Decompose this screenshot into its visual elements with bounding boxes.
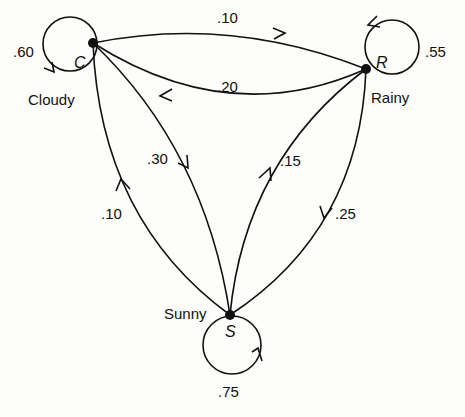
node-sunny-dot bbox=[225, 310, 235, 320]
prob-sunny-to-cloudy: .10 bbox=[101, 205, 122, 222]
edge-sunny-to-cloudy bbox=[93, 43, 230, 315]
node-name-sunny: Sunny bbox=[164, 305, 207, 322]
self-loop-rainy bbox=[365, 20, 419, 74]
edge-sunny-to-rainy bbox=[230, 69, 366, 315]
prob-sunny-to-rainy: .15 bbox=[280, 152, 301, 169]
edge-cloudy-to-rainy bbox=[93, 33, 366, 69]
node-name-rainy: Rainy bbox=[371, 89, 409, 106]
prob-rainy-self: .55 bbox=[425, 43, 446, 60]
edge-cloudy-to-sunny bbox=[93, 43, 230, 315]
edge-rainy-to-sunny bbox=[230, 69, 366, 315]
node-cloudy-dot bbox=[88, 38, 98, 48]
arrow-icon bbox=[44, 62, 54, 72]
prob-cloudy-to-sunny: .30 bbox=[147, 150, 168, 167]
state-diagram-canvas bbox=[0, 0, 465, 417]
arrow-icon bbox=[116, 179, 130, 191]
prob-cloudy-to-rainy: .10 bbox=[217, 9, 238, 26]
prob-rainy-to-sunny: .25 bbox=[335, 205, 356, 222]
prob-cloudy-self: .60 bbox=[13, 43, 34, 60]
node-letter-rainy: R bbox=[376, 54, 388, 72]
node-rainy-dot bbox=[361, 64, 371, 74]
prob-sunny-self: .75 bbox=[218, 383, 239, 400]
arrow-icon bbox=[160, 89, 172, 101]
node-letter-cloudy: C bbox=[74, 54, 86, 72]
node-letter-sunny: S bbox=[225, 323, 236, 341]
arrow-icon bbox=[368, 16, 380, 27]
node-name-cloudy: Cloudy bbox=[28, 91, 75, 108]
arrow-icon bbox=[273, 28, 285, 39]
prob-rainy-to-cloudy: .20 bbox=[217, 78, 238, 95]
